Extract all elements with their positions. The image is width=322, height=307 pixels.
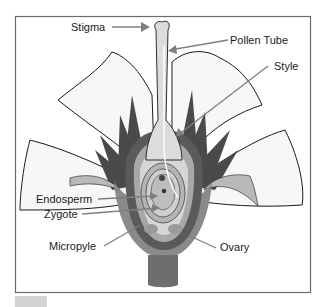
label-endosperm: Endosperm	[36, 193, 92, 205]
footer-chip	[15, 296, 47, 307]
label-micropyle: Micropyle	[49, 240, 96, 252]
label-style: Style	[274, 60, 298, 72]
label-zygote: Zygote	[44, 208, 78, 220]
receptacle-stalk	[148, 255, 178, 287]
label-pollen-tube: Pollen Tube	[230, 34, 288, 46]
label-ovary: Ovary	[220, 241, 249, 253]
endosperm-nucleus	[159, 175, 165, 181]
diagram-canvas	[0, 0, 322, 307]
flower-diagram: Stigma Pollen Tube Style Endosperm Zygot…	[0, 0, 322, 307]
zygote-dot	[162, 189, 166, 193]
label-stigma: Stigma	[71, 21, 105, 33]
